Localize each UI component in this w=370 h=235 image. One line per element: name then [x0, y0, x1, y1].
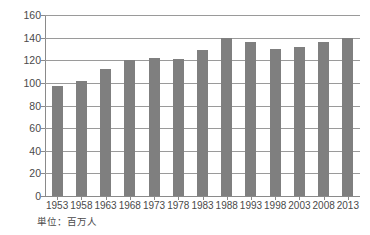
y-axis-tick-mark — [41, 106, 45, 107]
x-axis-tick-mark — [251, 196, 252, 200]
x-axis-tick-label: 1953 — [46, 201, 68, 211]
x-axis-tick-mark — [275, 196, 276, 200]
y-axis-tick-label: 40 — [1, 146, 41, 157]
x-axis-tick-label: 1998 — [264, 201, 286, 211]
bar — [52, 86, 63, 196]
x-axis-tick-label: 1973 — [143, 201, 165, 211]
bar — [270, 49, 281, 196]
x-axis-tick-label: 1978 — [167, 201, 189, 211]
x-axis-tick-mark — [154, 196, 155, 200]
x-axis-tick-mark — [324, 196, 325, 200]
x-axis-tick-label: 2008 — [313, 201, 335, 211]
y-axis-tick-mark — [41, 83, 45, 84]
bar — [294, 47, 305, 196]
y-axis-tick-mark — [41, 128, 45, 129]
y-axis-tick-label: 0 — [1, 191, 41, 202]
x-axis-tick-label: 1988 — [216, 201, 238, 211]
x-axis-tick-label: 1968 — [119, 201, 141, 211]
y-axis-tick-label: 140 — [1, 32, 41, 43]
y-axis-tick-mark — [41, 38, 45, 39]
bar — [173, 59, 184, 196]
y-axis-tick-label: 120 — [1, 55, 41, 66]
x-axis-tick-mark — [348, 196, 349, 200]
x-axis-tick-mark — [106, 196, 107, 200]
bar — [76, 81, 87, 196]
bar-chart-figure: 160140120100806040200 195319581963196819… — [0, 0, 370, 235]
x-axis-tick-mark — [227, 196, 228, 200]
x-axis-tick-label: 1993 — [240, 201, 262, 211]
bar — [124, 60, 135, 196]
x-axis-tick-label: 2013 — [337, 201, 359, 211]
y-axis-tick-label: 60 — [1, 123, 41, 134]
x-axis-tick-mark — [81, 196, 82, 200]
x-axis-tick-mark — [130, 196, 131, 200]
x-axis-tick-label: 2003 — [288, 201, 310, 211]
bar — [342, 38, 353, 196]
unit-caption: 単位：百万人 — [37, 217, 97, 227]
y-axis-tick-mark — [41, 173, 45, 174]
bar — [100, 69, 111, 196]
gridline — [45, 15, 360, 16]
x-axis-tick-mark — [57, 196, 58, 200]
y-axis-tick-label: 100 — [1, 78, 41, 89]
x-axis-tick-label: 1963 — [94, 201, 116, 211]
y-axis-tick-label: 80 — [1, 100, 41, 111]
gridline — [45, 38, 360, 39]
y-axis-tick-label: 20 — [1, 168, 41, 179]
bar — [245, 42, 256, 196]
x-axis-tick-label: 1983 — [191, 201, 213, 211]
bar — [318, 42, 329, 196]
plot-area — [45, 15, 360, 196]
x-axis-tick-mark — [299, 196, 300, 200]
y-axis-tick-mark — [41, 151, 45, 152]
bar — [197, 50, 208, 196]
y-axis-tick-label: 160 — [1, 10, 41, 21]
y-axis-tick-mark — [41, 60, 45, 61]
bar — [221, 38, 232, 196]
x-axis-tick-label: 1958 — [70, 201, 92, 211]
y-axis-tick-mark — [41, 196, 45, 197]
x-axis-tick-mark — [203, 196, 204, 200]
y-axis-tick-mark — [41, 15, 45, 16]
bar — [149, 58, 160, 196]
y-axis-labels: 160140120100806040200 — [0, 15, 41, 196]
x-axis-tick-mark — [178, 196, 179, 200]
